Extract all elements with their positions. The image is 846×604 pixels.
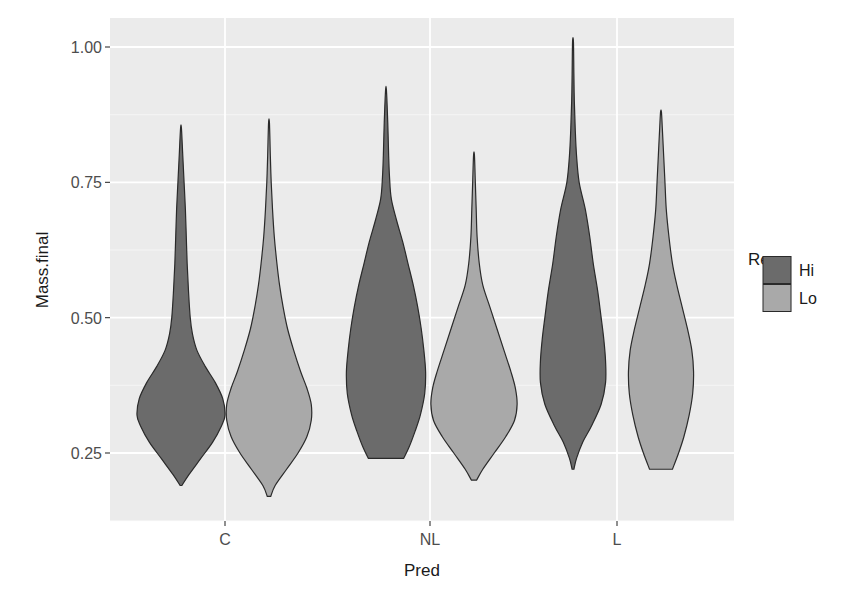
x-tick-label: L xyxy=(613,531,622,548)
violin-chart: 0.250.500.751.00 CNLL Pred Mass.final Re… xyxy=(0,0,846,604)
legend-keys: HiLo xyxy=(763,256,817,312)
legend-label-hi: Hi xyxy=(799,262,814,279)
legend-swatch-lo xyxy=(763,285,791,312)
x-axis-title: Pred xyxy=(404,561,440,580)
y-tick-label: 0.25 xyxy=(71,445,102,462)
x-axis: CNLL xyxy=(219,521,621,548)
y-axis: 0.250.500.751.00 xyxy=(71,39,110,462)
y-axis-title: Mass.final xyxy=(33,232,52,309)
x-tick-label: C xyxy=(219,531,231,548)
y-tick-label: 0.50 xyxy=(71,310,102,327)
legend-label-lo: Lo xyxy=(799,290,817,307)
y-tick-label: 0.75 xyxy=(71,174,102,191)
legend: Res HiLo xyxy=(748,250,817,312)
y-tick-label: 1.00 xyxy=(71,39,102,56)
legend-swatch-hi xyxy=(763,257,791,284)
x-tick-label: NL xyxy=(420,531,441,548)
